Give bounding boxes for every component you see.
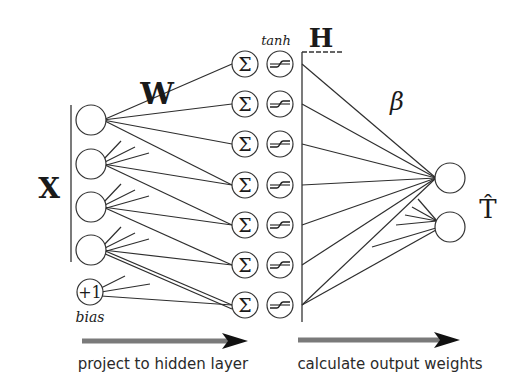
svg-text:Σ: Σ [238,133,251,155]
hidden-output-connections [302,64,437,305]
bias-label: bias [76,309,105,325]
svg-text:Σ: Σ [238,53,251,75]
svg-text:Σ: Σ [238,93,251,115]
calculate-arrow-label: calculate output weights [297,355,482,373]
hidden-unit: Σ [232,292,293,318]
output-layer [435,163,465,242]
activation-label: tanh [261,33,291,48]
hidden-unit: Σ [232,131,293,157]
input-matrix-label: X [38,172,60,205]
weights-input-label: W [139,76,175,111]
input-node [76,235,106,265]
hidden-unit: Σ [232,172,293,198]
project-arrow [82,333,248,349]
hidden-unit: Σ [232,51,293,77]
output-node [435,163,465,193]
project-arrow-label: project to hidden layer [78,355,249,373]
svg-text:Σ: Σ [238,214,251,236]
weights-output-label: β [389,88,404,116]
svg-text:+1: +1 [78,283,102,302]
svg-text:Σ: Σ [238,294,251,316]
input-node [76,105,106,135]
calculate-arrow [298,332,460,348]
input-node [76,192,106,222]
hidden-unit: Σ [232,212,293,238]
input-node [76,149,106,179]
input-layer: +1 [76,105,106,305]
output-node [435,212,465,242]
hidden-unit: Σ [232,252,293,278]
output-label: T̂ [479,194,497,224]
hidden-matrix-label: H [309,23,334,53]
svg-text:Σ: Σ [238,254,251,276]
elm-network-diagram: +1 ΣΣΣΣΣΣΣ W X tanh H β T̂ bias project … [0,0,523,392]
hidden-unit: Σ [232,91,293,117]
svg-text:Σ: Σ [238,174,251,196]
hidden-layer: ΣΣΣΣΣΣΣ [232,51,293,318]
